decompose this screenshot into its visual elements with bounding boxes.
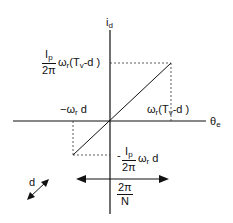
top-label: ωr(Tv-d ) — [58, 57, 100, 70]
period-fraction: 2πN — [117, 182, 133, 207]
neg-x-label: −ωr d — [60, 104, 87, 117]
y-axis-label: id — [106, 17, 113, 30]
top-fraction: Ip2π — [42, 49, 56, 76]
x-axis-label: θe — [210, 116, 221, 129]
bottom-fraction: Ip2π — [122, 146, 136, 173]
bottom-label: ωr d — [138, 153, 158, 166]
pos-x-label: ωr(Tv-d ) — [147, 104, 189, 117]
current-vs-angle-diagram: id θe Ip2π ωr(Tv-d ) −ωr d ωr(Tv-d ) - I… — [0, 0, 233, 223]
bottom-minus: - — [117, 150, 121, 161]
d-label: d — [29, 177, 35, 188]
